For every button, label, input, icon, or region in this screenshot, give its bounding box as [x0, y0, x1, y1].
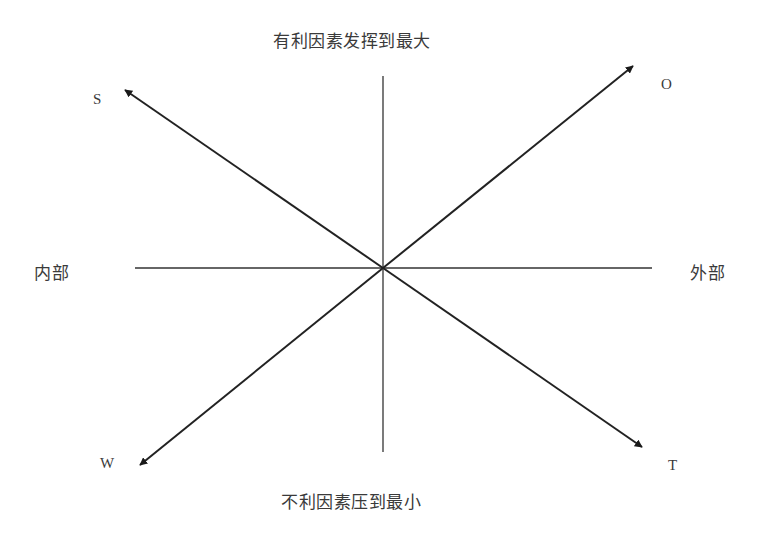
right-label: 外部	[690, 259, 725, 284]
left-label: 内部	[34, 259, 69, 284]
quadrant-label-o: O	[661, 76, 672, 93]
quadrant-label-s: S	[93, 91, 101, 108]
bottom-label: 不利因素压到最小	[281, 488, 421, 513]
arrow-t	[383, 268, 642, 447]
arrow-w	[140, 268, 383, 465]
quadrant-label-w: W	[100, 455, 114, 472]
arrow-o	[383, 66, 633, 268]
quadrant-label-t: T	[668, 457, 677, 474]
arrow-s	[125, 90, 383, 268]
top-label: 有利因素发挥到最大	[273, 27, 431, 52]
